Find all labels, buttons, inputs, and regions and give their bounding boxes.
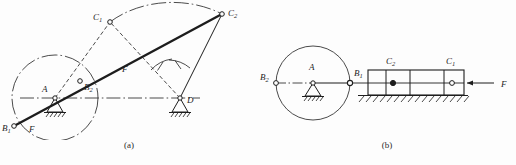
label-d: D (186, 95, 194, 105)
panel-b-drawing: B2 A B1 C2 C1 F (258, 0, 516, 140)
label-b2: B2 (260, 72, 270, 83)
joint-b2 (274, 81, 279, 86)
panel-b: B2 A B1 C2 C1 F (b) (258, 0, 516, 165)
joint-b1 (12, 124, 17, 129)
label-c2: C2 (386, 56, 396, 67)
label-force-lower-left: F (28, 124, 35, 134)
label-a: A (308, 62, 315, 72)
label-c1: C1 (446, 56, 455, 67)
joint-c1 (450, 81, 455, 86)
joint-c2 (390, 80, 395, 85)
link-ab1c1-dashed (55, 22, 110, 98)
label-b1: B1 (2, 123, 11, 134)
caption-panel-a: (a) (0, 140, 258, 150)
label-c2: C2 (228, 8, 238, 19)
label-a: A (41, 84, 48, 94)
joint-b2 (78, 79, 83, 84)
mechanism-figure: A B1 B2 C1 C2 D F F (a) (0, 0, 516, 165)
panel-a-drawing: A B1 B2 C1 C2 D F F (0, 0, 258, 140)
joint-b1 (347, 80, 352, 85)
pivot-ground-a (302, 81, 324, 101)
label-force: F (500, 79, 507, 89)
caption-panel-b: (b) (258, 140, 516, 150)
ground-hatching (359, 96, 469, 102)
coupler-point-arc (110, 2, 222, 22)
joint-c1 (108, 20, 113, 25)
swing-tick-left (158, 62, 164, 71)
panel-a: A B1 B2 C1 C2 D F F (a) (0, 0, 258, 165)
label-force-coupler: F (121, 64, 128, 74)
joint-c2 (220, 12, 225, 17)
label-c1: C1 (93, 12, 102, 23)
label-b1: B1 (354, 68, 363, 79)
